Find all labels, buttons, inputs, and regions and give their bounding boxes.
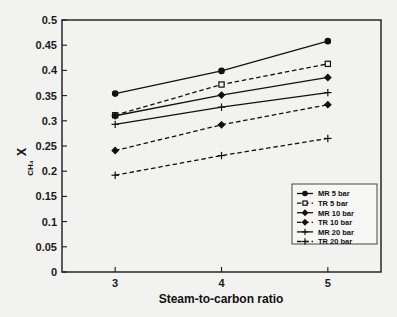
legend-label: TR 20 bar bbox=[318, 237, 352, 246]
data-point bbox=[112, 91, 117, 96]
data-point bbox=[218, 103, 225, 110]
y-tick-label: 0.2 bbox=[42, 165, 57, 177]
data-point bbox=[112, 147, 118, 153]
y-axis-tick-labels: 00.050.10.150.20.250.30.350.40.450.5 bbox=[36, 14, 58, 278]
y-axis-title: X CH₄ bbox=[15, 148, 35, 176]
legend-label: TR 5 bar bbox=[318, 199, 348, 208]
x-tick-label: 4 bbox=[218, 277, 225, 289]
x-axis-ticks bbox=[115, 267, 328, 272]
chart-legend: MR 5 barTR 5 barMR 10 barTR 10 barMR 20 … bbox=[292, 184, 377, 246]
y-tick-label: 0.35 bbox=[36, 90, 57, 102]
data-point bbox=[219, 68, 224, 73]
y-tick-label: 0 bbox=[51, 266, 57, 278]
data-point bbox=[325, 102, 331, 108]
data-point bbox=[111, 121, 118, 128]
data-point bbox=[325, 61, 330, 66]
x-axis-title: Steam-to-carbon ratio bbox=[159, 292, 284, 306]
data-point bbox=[218, 92, 224, 98]
legend-marker bbox=[303, 201, 307, 205]
y-tick-label: 0.15 bbox=[36, 190, 57, 202]
data-point bbox=[219, 82, 224, 87]
y-tick-label: 0.5 bbox=[42, 14, 57, 26]
y-axis-title-text: X bbox=[15, 148, 29, 156]
data-point bbox=[218, 122, 224, 128]
data-point bbox=[325, 74, 331, 80]
y-axis-ticks bbox=[62, 20, 67, 272]
data-point bbox=[324, 89, 331, 96]
y-tick-label: 0.4 bbox=[42, 64, 58, 76]
legend-label: MR 5 bar bbox=[318, 189, 350, 198]
legend-item[interactable]: TR 20 bar bbox=[297, 237, 352, 246]
y-tick-label: 0.1 bbox=[42, 216, 57, 228]
chart-figure: 00.050.10.150.20.250.30.350.40.450.5 345… bbox=[0, 0, 397, 317]
y-tick-label: 0.45 bbox=[36, 39, 57, 51]
x-tick-label: 3 bbox=[112, 277, 118, 289]
data-point bbox=[325, 38, 330, 43]
data-point bbox=[111, 172, 118, 179]
y-tick-label: 0.25 bbox=[36, 140, 57, 152]
x-tick-label: 5 bbox=[325, 277, 331, 289]
legend-label: TR 10 bar bbox=[318, 218, 352, 227]
y-axis-title-subscript: CH₄ bbox=[26, 160, 35, 176]
data-point bbox=[218, 152, 225, 159]
data-series bbox=[111, 135, 331, 179]
legend-marker bbox=[303, 191, 307, 195]
y-tick-label: 0.3 bbox=[42, 115, 57, 127]
x-axis-tick-labels: 345 bbox=[112, 277, 331, 289]
chart-canvas: 00.050.10.150.20.250.30.350.40.450.5 345… bbox=[0, 0, 397, 317]
legend-label: MR 10 bar bbox=[318, 209, 354, 218]
data-point bbox=[324, 135, 331, 142]
legend-label: MR 20 bar bbox=[318, 228, 354, 237]
y-tick-label: 0.05 bbox=[36, 241, 57, 253]
data-series-layer bbox=[111, 38, 331, 178]
